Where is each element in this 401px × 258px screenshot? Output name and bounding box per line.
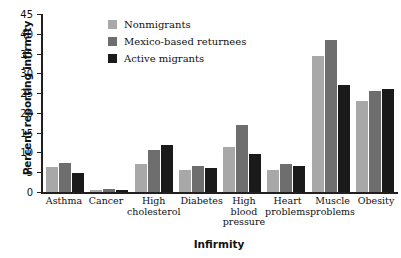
- y-axis-tick-label: 0: [0, 187, 33, 198]
- bar: [325, 40, 337, 192]
- bar: [135, 164, 147, 192]
- legend-label: Nonmigrants: [124, 19, 191, 30]
- bar: [356, 101, 368, 192]
- bar: [280, 164, 292, 192]
- y-axis-tick-label: 45: [0, 9, 33, 20]
- bar: [293, 166, 305, 192]
- x-axis-category-label: Obesity: [355, 196, 397, 228]
- bar: [103, 189, 115, 192]
- bar: [382, 89, 394, 192]
- bar: [249, 154, 261, 192]
- bar: [90, 190, 102, 192]
- y-axis-tick-label: 35: [0, 48, 33, 59]
- y-axis-tick-label: 40: [0, 28, 33, 39]
- legend-item: Nonmigrants: [108, 16, 246, 33]
- bar: [116, 190, 128, 192]
- y-axis-tick: [37, 93, 42, 94]
- bar-group: [264, 14, 308, 192]
- x-axis-category-label: Highcholesterol: [127, 196, 180, 228]
- legend-swatch-icon: [108, 20, 117, 29]
- bar-chart: Percent reporting infirmity 051015202530…: [0, 0, 401, 258]
- y-axis-tick: [37, 133, 42, 134]
- x-axis-category-labels: AsthmaCancerHighcholesterolDiabetesHighb…: [43, 196, 397, 228]
- legend-label: Mexico-based returnees: [124, 36, 246, 47]
- bar: [338, 85, 350, 192]
- bar-group: [353, 14, 397, 192]
- legend-swatch-icon: [108, 54, 117, 63]
- y-axis-tick: [37, 14, 42, 15]
- y-axis-tick-label: 25: [0, 88, 33, 99]
- bar: [161, 145, 173, 192]
- bar: [192, 166, 204, 192]
- x-axis-category-label: Muscleproblems: [310, 196, 355, 228]
- y-axis-tick: [37, 54, 42, 55]
- legend: NonmigrantsMexico-based returneesActive …: [108, 16, 246, 67]
- y-axis-tick-label: 15: [0, 127, 33, 138]
- y-axis-tick: [37, 152, 42, 153]
- y-axis-tick-label: 30: [0, 68, 33, 79]
- x-axis-category-label: Heartproblems: [265, 196, 310, 228]
- bar: [46, 167, 58, 192]
- bar-group: [43, 14, 87, 192]
- y-axis-tick-label: 10: [0, 147, 33, 158]
- legend-label: Active migrants: [124, 53, 204, 64]
- bar: [205, 168, 217, 192]
- legend-swatch-icon: [108, 37, 117, 46]
- y-axis-tick: [37, 172, 42, 173]
- bar: [312, 56, 324, 192]
- y-axis-tick: [37, 113, 42, 114]
- legend-item: Mexico-based returnees: [108, 33, 246, 50]
- y-axis-tick: [37, 73, 42, 74]
- legend-item: Active migrants: [108, 50, 246, 67]
- bar-group: [309, 14, 353, 192]
- y-axis-tick-label: 5: [0, 167, 33, 178]
- y-axis-tick: [37, 192, 42, 193]
- x-axis-category-label: Diabetes: [180, 196, 222, 228]
- bar: [59, 163, 71, 192]
- bar: [148, 150, 160, 192]
- x-axis-category-label: Asthma: [43, 196, 85, 228]
- x-axis-line: [41, 192, 398, 194]
- bar: [369, 91, 381, 192]
- bar: [267, 170, 279, 192]
- x-axis-category-label: Highbloodpressure: [223, 196, 265, 228]
- y-axis-tick-label: 20: [0, 107, 33, 118]
- bar: [223, 147, 235, 192]
- x-axis-category-label: Cancer: [85, 196, 127, 228]
- bar: [179, 170, 191, 192]
- x-axis-title: Infirmity: [41, 238, 397, 250]
- y-axis-tick: [37, 34, 42, 35]
- bar: [236, 125, 248, 192]
- bar: [72, 173, 84, 192]
